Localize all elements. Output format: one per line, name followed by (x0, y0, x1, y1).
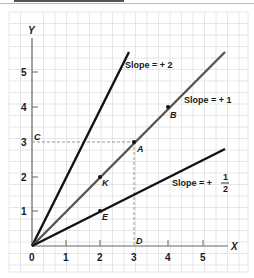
x-tick-5: 5 (200, 252, 206, 263)
label-c: C (34, 132, 41, 142)
slope-chart: Y X 0 1 2 3 4 5 1 2 3 4 5 C A B K E D Sl… (0, 0, 254, 278)
y-axis-title: Y (28, 25, 36, 36)
y-tick-5: 5 (21, 67, 27, 78)
x-tick-4: 4 (165, 252, 171, 263)
label-a: A (136, 144, 144, 154)
x-tick-0: 0 (29, 252, 35, 263)
point-b (166, 105, 170, 109)
x-tick-1: 1 (63, 252, 69, 263)
label-k: K (102, 178, 110, 188)
label-slope-half-numerator: 1 (223, 172, 228, 182)
label-slope-half-prefix: Slope = + (172, 178, 212, 188)
x-axis-title: X (230, 241, 239, 252)
label-d: D (136, 236, 143, 246)
y-tick-2: 2 (21, 172, 27, 183)
x-tick-2: 2 (97, 252, 103, 263)
y-tick-3: 3 (21, 137, 27, 148)
point-a (132, 140, 136, 144)
x-ticks (66, 240, 203, 246)
label-slope-2: Slope = + 2 (125, 60, 173, 70)
label-e: E (102, 212, 109, 222)
line-slope-half (32, 149, 225, 246)
y-tick-1: 1 (21, 206, 27, 217)
y-tick-4: 4 (21, 102, 27, 113)
label-slope-half-denominator: 2 (223, 184, 228, 194)
x-tick-3: 3 (131, 252, 137, 263)
label-b: B (170, 110, 177, 120)
label-slope-half: Slope = + 1 2 (172, 172, 229, 194)
label-slope-1: Slope = + 1 (184, 95, 232, 105)
